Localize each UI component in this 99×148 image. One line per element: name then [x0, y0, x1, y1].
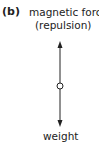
- force-diagram: [0, 0, 99, 148]
- object-point-icon: [57, 83, 63, 89]
- weight-label: weight: [43, 130, 78, 142]
- down-arrowhead-icon: [58, 120, 63, 127]
- up-arrowhead-icon: [58, 41, 63, 48]
